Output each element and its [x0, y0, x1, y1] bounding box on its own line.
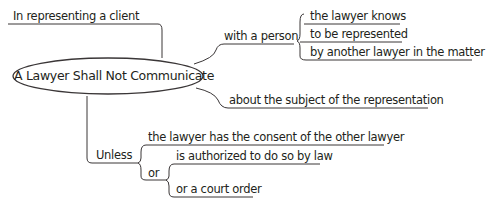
- node-the-lawyer-knows: the lawyer knows: [310, 9, 406, 23]
- node-unless: Unless: [96, 148, 132, 162]
- brace-unless: [138, 145, 146, 180]
- node-authorized-by-law: is authorized to do so by law: [176, 149, 333, 163]
- node-or: or: [148, 166, 159, 180]
- node-court-order: or a court order: [176, 182, 262, 196]
- node-in-representing-a-client: In representing a client: [13, 9, 139, 23]
- node-by-another-lawyer: by another lawyer in the matter: [310, 45, 485, 59]
- root-node: A Lawyer Shall Not Communicate: [14, 69, 204, 83]
- brace-or: [166, 164, 174, 197]
- node-consent-of-other-lawyer: the lawyer has the consent of the other …: [148, 130, 404, 144]
- brace-person: [297, 14, 306, 60]
- node-to-be-represented: to be represented: [310, 27, 408, 41]
- node-about-the-subject: about the subject of the representation: [229, 93, 444, 107]
- connector-person: [194, 44, 294, 64]
- connector-context: [8, 24, 162, 58]
- node-with-a-person: with a person: [224, 29, 298, 43]
